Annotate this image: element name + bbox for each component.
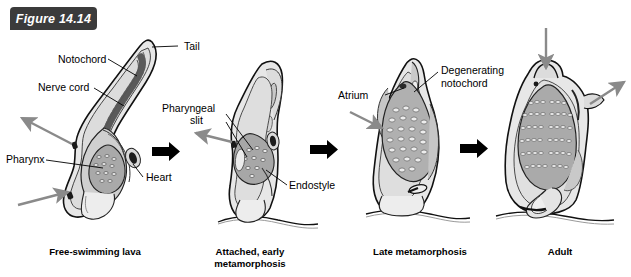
arrow-larva-to-attached <box>152 142 180 161</box>
panel-larva-art <box>18 40 156 219</box>
caption-panel-attached-line1: Attached, early <box>185 246 315 258</box>
label-tail: Tail <box>184 40 200 52</box>
label-nerve-cord: Nerve cord <box>38 81 89 93</box>
label-endostyle: Endostyle <box>289 179 335 191</box>
caption-panel-attached-line2: metamorphosis <box>185 258 315 270</box>
label-heart: Heart <box>146 171 172 183</box>
figure-container: Figure 14.14 Tail Notochord Nerve cord P… <box>0 0 631 277</box>
label-pharyngeal-slit-line1: Pharyngeal <box>162 102 215 114</box>
panel-adult-art <box>496 28 624 224</box>
label-degenerating-notochord-line2: notochord <box>441 77 488 89</box>
caption-panel-late: Late metamorphosis <box>340 246 500 258</box>
arrow-late-to-adult <box>460 139 488 158</box>
figure-number-badge: Figure 14.14 <box>10 7 97 30</box>
tunicate-metamorphosis-artwork <box>0 0 631 277</box>
caption-panel-adult: Adult <box>505 246 615 258</box>
label-pharyngeal-slit-line2: slit <box>190 114 203 126</box>
panel-attached-art <box>196 61 318 228</box>
label-atrium: Atrium <box>338 89 368 101</box>
label-notochord: Notochord <box>58 53 106 65</box>
arrow-attached-to-late <box>310 140 338 159</box>
label-degenerating-notochord-line1: Degenerating <box>441 64 504 76</box>
caption-panel-larva: Free-swimming lava <box>30 246 160 258</box>
figure-number-label: Figure 14.14 <box>16 12 91 26</box>
label-pharynx: Pharynx <box>6 153 45 165</box>
